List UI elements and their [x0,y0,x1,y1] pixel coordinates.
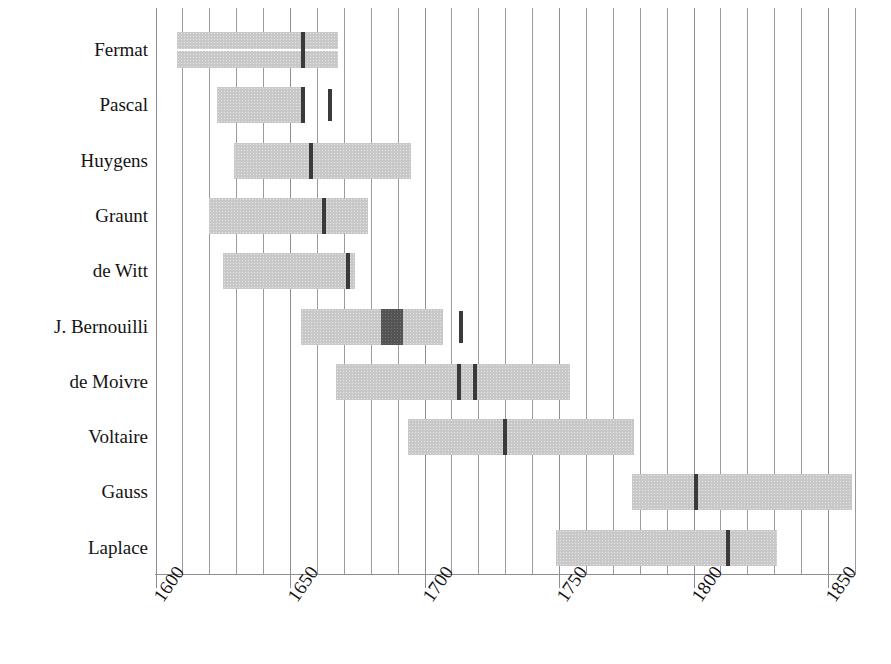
bar-graunt [209,198,368,234]
marker-huygens-1657 [309,143,313,179]
gridline-1700 [425,8,426,575]
row-label-text: Graunt [95,206,148,226]
bar-voltaire [408,419,634,455]
bar-j-bernouilli [301,309,444,345]
row-label-voltaire: Voltaire [0,427,148,447]
row-label-text: Gauss [102,482,148,502]
bar-fermat [177,32,338,68]
marker-fermat-1654 [301,32,305,68]
bar-de-moivre [336,364,570,400]
gridline-1670 [344,8,345,575]
marker-standalone-j-bernouilli-1713 [459,311,463,343]
row-label-gauss: Gauss [0,482,148,502]
marker-de-witt-1671 [346,253,350,289]
row-label-text: de Moivre [69,372,148,392]
bar-gauss [632,474,853,510]
row-label-text: Pascal [99,95,148,115]
marker-graunt-1662 [322,198,326,234]
row-label-text: Voltaire [88,427,148,447]
bar-pascal [217,87,300,123]
gridline-1860 [855,8,856,575]
row-label-pascal: Pascal [0,95,148,115]
row-label-huygens: Huygens [0,151,148,171]
row-label-text: Laplace [88,538,148,558]
row-label-text: Huygens [80,151,148,171]
gridline-1760 [586,8,587,575]
row-label-j-bernouilli: J. Bernouilli [0,317,148,337]
gridline-1750 [559,8,560,575]
timeline-chart: FermatPascalHuygensGrauntde WittJ. Berno… [0,0,891,664]
marker-pascal-1654 [301,87,305,123]
gridline-1730 [505,8,506,575]
row-label-laplace: Laplace [0,538,148,558]
gridline-1600 [156,8,157,575]
row-label-de-moivre: de Moivre [0,372,148,392]
marker-block-j-bernouilli-1684 [381,309,403,345]
gridline-1690 [398,8,399,575]
row-label-graunt: Graunt [0,206,148,226]
gridline-1770 [613,8,614,575]
marker-de-moivre-1718 [473,364,477,400]
x-axis-line [155,574,855,575]
marker-gauss-1800 [694,474,698,510]
gridline-1720 [478,8,479,575]
gridline-1740 [532,8,533,575]
bar-huygens [234,143,412,179]
row-label-de-witt: de Witt [0,261,148,281]
gridline-1680 [371,8,372,575]
row-label-text: J. Bernouilli [54,317,148,337]
row-label-fermat: Fermat [0,40,148,60]
marker-voltaire-1729 [503,419,507,455]
gridline-1710 [451,8,452,575]
bar-laplace [556,530,777,566]
gridline-1620 [209,8,210,575]
marker-standalone-pascal-1664 [328,89,332,121]
marker-de-moivre-1712 [457,364,461,400]
marker-laplace-1812 [726,530,730,566]
gridline-1610 [182,8,183,575]
row-label-text: de Witt [93,261,148,281]
bar-de-witt [223,253,355,289]
gridline-1660 [317,8,318,575]
row-label-text: Fermat [94,40,148,60]
